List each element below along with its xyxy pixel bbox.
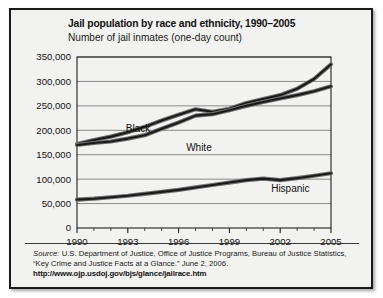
gridlines xyxy=(77,57,331,204)
x-tick-label: 1999 xyxy=(219,236,240,247)
source-citation: Source: U.S. Department of Justice, Offi… xyxy=(33,249,351,268)
x-tick-label: 2002 xyxy=(270,236,291,247)
x-tick-label: 1996 xyxy=(168,236,189,247)
y-tick-label: 0 xyxy=(66,222,71,233)
y-tick-label: 350,000 xyxy=(36,51,71,62)
y-tick-label: 300,000 xyxy=(36,76,71,87)
series-line-black xyxy=(77,64,331,144)
y-tick-label: 250,000 xyxy=(36,100,71,111)
source-label: Source: xyxy=(33,249,60,258)
series-label-hispanic: Hispanic xyxy=(271,183,309,194)
source-block: Source: U.S. Department of Justice, Offi… xyxy=(33,249,351,279)
divider xyxy=(25,243,359,244)
x-tick-label: 2005 xyxy=(320,236,341,247)
y-tick-label: 100,000 xyxy=(36,174,71,185)
source-url: http://www.ojp.usdoj.gov/bjs/glance/jail… xyxy=(33,269,351,279)
y-tick-label: 150,000 xyxy=(36,149,71,160)
y-axis-ticks: 350,000300,000250,000200,000150,000100,0… xyxy=(36,51,71,233)
y-tick-label: 50,000 xyxy=(42,198,71,209)
figure-panel: Jail population by race and ethnicity, 1… xyxy=(9,8,373,289)
series-line-halo xyxy=(77,64,331,144)
source-text: U.S. Department of Justice, Office of Ju… xyxy=(33,249,346,268)
series-label-black: Black xyxy=(126,123,151,134)
x-tick-label: 1993 xyxy=(117,236,138,247)
y-tick-label: 200,000 xyxy=(36,125,71,136)
x-tick-label: 1990 xyxy=(66,236,87,247)
series-label-white: White xyxy=(186,142,212,153)
x-axis-ticks: 199019931996199920022005 xyxy=(66,228,341,247)
